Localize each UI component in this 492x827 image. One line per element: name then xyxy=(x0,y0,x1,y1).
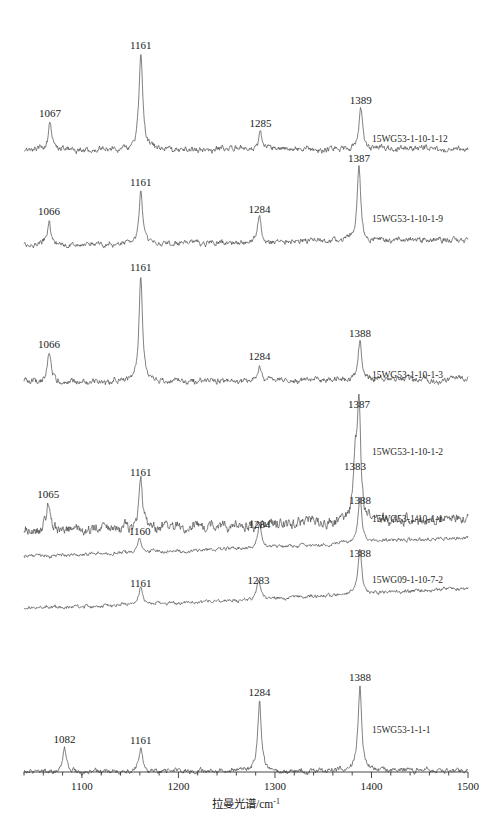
sample-label: 15WG53-1-10-1-9 xyxy=(372,214,443,224)
peak-label: 1161 xyxy=(130,39,152,51)
peak-label: 1161 xyxy=(130,466,152,478)
sample-labels-layer: 15WG53-1-10-1-1215WG53-1-10-1-915WG53-1-… xyxy=(372,134,448,735)
sample-label: 15WG53-1-1-1 xyxy=(372,725,431,735)
peak-label: 1387 xyxy=(348,398,371,410)
sample-label: 15WG53-1-10-1-2 xyxy=(372,447,443,457)
peak-label: 1161 xyxy=(130,261,152,273)
sample-label: 15WG53-1-10-1-12 xyxy=(372,134,448,144)
sample-label: 15WG53-1-10-1-3 xyxy=(372,370,443,380)
peak-label: 1161 xyxy=(130,577,152,589)
x-axis-title: 拉曼光谱/cm-1 xyxy=(212,797,280,810)
x-axis-tick-label: 1300 xyxy=(264,780,287,792)
peak-label: 1065 xyxy=(37,488,60,500)
peak-label: 1283 xyxy=(248,574,271,586)
peak-label: 1284 xyxy=(249,350,272,362)
peak-label: 1160 xyxy=(129,525,151,537)
sample-label: 15WG53-1-10-1-1 xyxy=(372,514,443,524)
peak-label: 1388 xyxy=(349,494,372,506)
peak-label: 1082 xyxy=(54,733,76,745)
x-axis-tick-label: 1500 xyxy=(457,780,480,792)
peak-label: 1387 xyxy=(348,152,371,164)
peak-label: 1388 xyxy=(349,327,372,339)
peak-label: 1388 xyxy=(349,671,372,683)
raman-plot-canvas: 1067116112851389106611611284138710661161… xyxy=(0,0,492,827)
peak-label: 1383 xyxy=(344,460,367,472)
x-axis-tick-label: 1400 xyxy=(360,780,383,792)
peak-label: 1067 xyxy=(39,107,62,119)
peak-label: 1161 xyxy=(130,176,152,188)
spectra-traces-layer xyxy=(24,55,468,776)
x-axis-tick-label: 1100 xyxy=(71,780,93,792)
x-axis-layer: 11001200130014001500拉曼光谱/cm-1 xyxy=(24,772,480,810)
peak-label: 1388 xyxy=(349,547,372,559)
peak-label: 1389 xyxy=(350,94,373,106)
x-axis-title-superscript: -1 xyxy=(273,797,280,806)
sample-label: 15WG09-1-10-7-2 xyxy=(372,575,443,585)
spectrum-trace xyxy=(24,278,468,385)
spectrum-trace xyxy=(24,497,468,558)
peak-label: 1284 xyxy=(249,686,272,698)
peak-label: 1066 xyxy=(38,338,61,350)
peak-label: 1284 xyxy=(249,203,272,215)
peak-label: 1284 xyxy=(249,518,272,530)
peak-label: 1161 xyxy=(130,734,152,746)
x-axis-tick-label: 1200 xyxy=(167,780,190,792)
peak-label: 1285 xyxy=(249,117,272,129)
peak-labels-layer: 1067116112851389106611611284138710661161… xyxy=(37,39,372,746)
raman-spectra-figure: 1067116112851389106611611284138710661161… xyxy=(0,0,492,827)
spectrum-trace xyxy=(24,166,468,248)
peak-label: 1066 xyxy=(38,205,61,217)
